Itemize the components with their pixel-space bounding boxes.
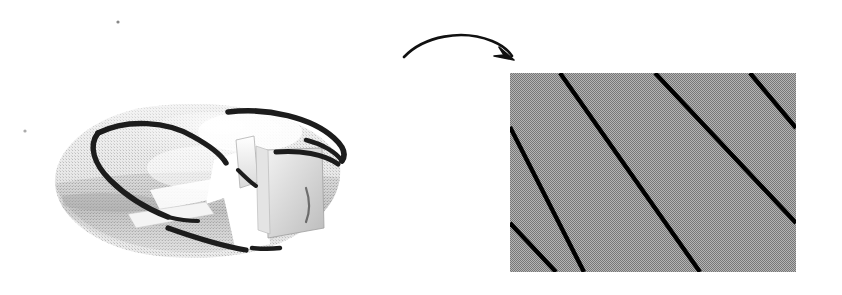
scan-speck [23, 129, 26, 132]
torus-cut-sliver [256, 146, 270, 234]
figure-container: Cut-open torus unfolded to a rectangle w… [0, 0, 842, 295]
scan-speck [116, 20, 119, 23]
unfolded-rectangle [510, 73, 796, 272]
torus-cut-face-right [266, 148, 324, 238]
figure-canvas [0, 0, 842, 295]
rectangle-fill [510, 73, 796, 272]
torus-curve-4b [252, 248, 280, 249]
